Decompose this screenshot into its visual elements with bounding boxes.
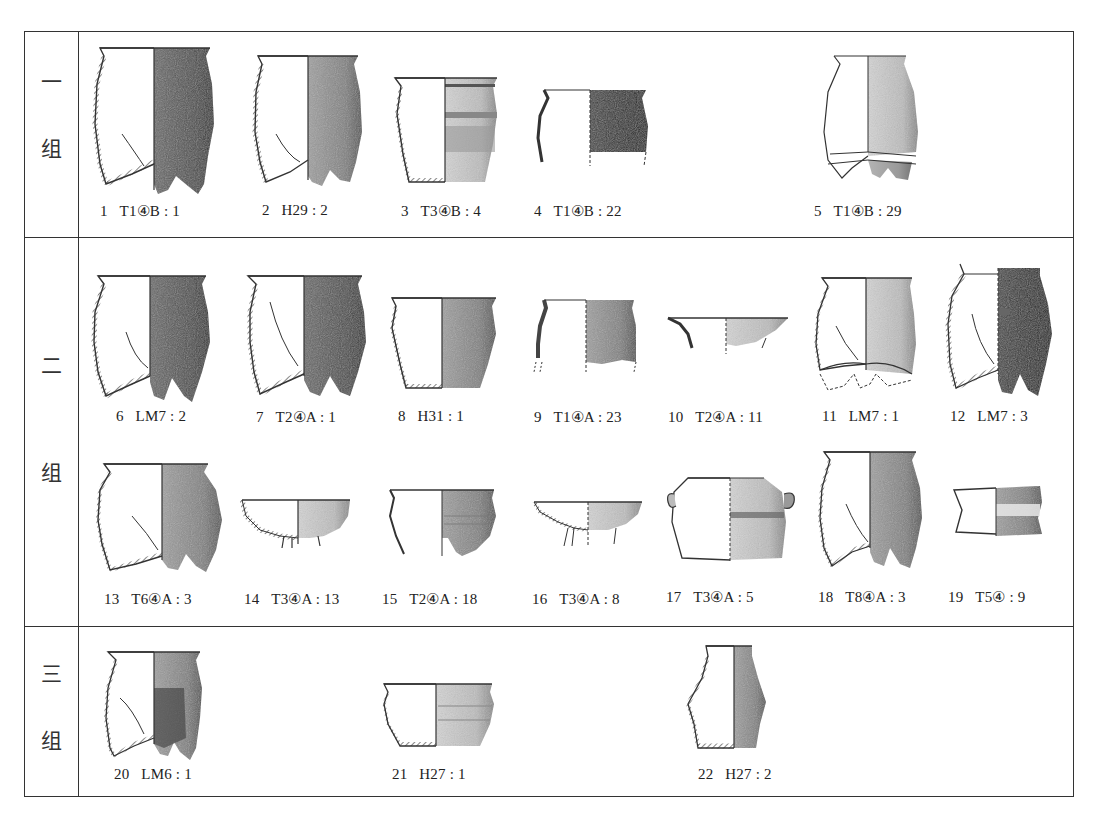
item-label: T6④A : 3 — [131, 591, 191, 607]
bowl-drawing-icon — [240, 496, 352, 552]
tripod-vessel-reconstructed-drawing-icon — [812, 52, 922, 184]
caption-5: 5 T1④B : 29 — [814, 202, 902, 220]
tripod-vessel-drawing-icon — [92, 44, 217, 196]
item-number: 3 — [401, 203, 409, 219]
item-number: 21 — [392, 766, 407, 782]
item-label: T1④B : 29 — [834, 203, 902, 219]
item-label: T3④A : 13 — [271, 591, 339, 607]
item-number: 5 — [814, 203, 822, 219]
caption-7: 7 T2④A : 1 — [256, 408, 336, 426]
bowl-drawing-icon — [530, 498, 646, 552]
item-label: H29 : 2 — [282, 202, 328, 218]
item-number: 15 — [382, 591, 397, 607]
caption-12: 12 LM7 : 3 — [950, 408, 1028, 425]
caption-18: 18 T8④A : 3 — [818, 588, 906, 606]
caption-17: 17 T3④A : 5 — [666, 588, 754, 606]
group-2-label: 二 组 — [24, 356, 78, 484]
tripod-vessel-drawing-icon — [246, 272, 366, 402]
tripod-vessel-drawing-icon — [252, 52, 364, 192]
item-number: 4 — [534, 203, 542, 219]
item-number: 2 — [262, 202, 270, 218]
group-2-label-bottom: 组 — [24, 463, 78, 484]
item-label: T8④A : 3 — [845, 589, 905, 605]
group-divider-1 — [24, 237, 1074, 238]
item-number: 22 — [698, 766, 713, 782]
caption-20: 20 LM6 : 1 — [114, 766, 192, 783]
item-label: H27 : 2 — [725, 766, 771, 782]
item-number: 12 — [950, 408, 965, 424]
item-number: 10 — [668, 409, 683, 425]
caption-3: 3 T3④B : 4 — [401, 202, 481, 220]
item-label: T1④B : 1 — [120, 203, 180, 219]
item-label: T1④B : 22 — [554, 203, 622, 219]
item-number: 20 — [114, 766, 129, 782]
item-number: 14 — [244, 591, 259, 607]
tripod-vessel-drawing-icon — [104, 648, 204, 764]
caption-9: 9 T1④A : 23 — [534, 408, 622, 426]
caption-13: 13 T6④A : 3 — [104, 590, 192, 608]
item-number: 16 — [532, 591, 547, 607]
item-number: 1 — [100, 203, 108, 219]
tripod-vessel-drawing-icon — [96, 460, 224, 576]
item-number: 9 — [534, 409, 542, 425]
jar-fragment-drawing-icon — [386, 486, 498, 558]
group-1-label-top: 一 — [24, 72, 78, 93]
group-3-label-top: 三 — [24, 664, 78, 685]
item-label: LM7 : 3 — [977, 408, 1028, 424]
caption-14: 14 T3④A : 13 — [244, 590, 339, 608]
item-label: T5④ : 9 — [975, 589, 1025, 605]
bowl-fragment-drawing-icon — [666, 314, 792, 362]
item-label: LM6 : 1 — [141, 766, 192, 782]
tripod-vessel-drawing-icon — [92, 272, 210, 404]
caption-21: 21 H27 : 1 — [392, 766, 466, 783]
item-number: 8 — [398, 408, 406, 424]
vessel-neck-fragment-drawing-icon — [950, 484, 1046, 544]
caption-16: 16 T3④A : 8 — [532, 590, 620, 608]
group-2-label-top: 二 — [24, 356, 78, 377]
item-label: T2④A : 1 — [276, 409, 336, 425]
jar-with-handles-drawing-icon — [664, 472, 800, 568]
item-number: 7 — [256, 409, 264, 425]
caption-4: 4 T1④B : 22 — [534, 202, 622, 220]
item-number: 17 — [666, 589, 681, 605]
group-1-label: 一 组 — [24, 72, 78, 160]
item-label: T2④A : 11 — [695, 409, 763, 425]
tripod-vessel-drawing-icon — [944, 264, 1054, 398]
caption-6: 6 LM7 : 2 — [116, 408, 186, 425]
item-number: 18 — [818, 589, 833, 605]
caption-8: 8 H31 : 1 — [398, 408, 464, 425]
item-label: H27 : 1 — [419, 766, 465, 782]
item-label: T3④A : 5 — [693, 589, 753, 605]
jar-fragment-drawing-icon — [532, 86, 652, 172]
group-column-divider — [78, 31, 79, 797]
tripod-vessel-drawing-icon — [818, 448, 928, 572]
tripod-vessel-reconstructed-drawing-icon — [814, 274, 916, 392]
group-1-label-bottom: 组 — [24, 139, 78, 160]
item-number: 13 — [104, 591, 119, 607]
caption-10: 10 T2④A : 11 — [668, 408, 763, 426]
group-divider-2 — [24, 626, 1074, 627]
jar-drawing-icon — [393, 74, 503, 186]
item-number: 6 — [116, 408, 124, 424]
caption-22: 22 H27 : 2 — [698, 766, 772, 783]
jar-drawing-icon — [390, 294, 498, 390]
group-3-label: 三 组 — [24, 664, 78, 752]
group-3-label-bottom: 组 — [24, 731, 78, 752]
caption-19: 19 T5④ : 9 — [948, 588, 1026, 606]
caption-1: 1 T1④B : 1 — [100, 202, 180, 220]
caption-11: 11 LM7 : 1 — [822, 408, 899, 425]
item-label: T2④A : 18 — [409, 591, 477, 607]
item-label: H31 : 1 — [418, 408, 464, 424]
item-label: T1④A : 23 — [554, 409, 622, 425]
caption-15: 15 T2④A : 18 — [382, 590, 477, 608]
item-number: 11 — [822, 408, 837, 424]
item-label: T3④A : 8 — [559, 591, 619, 607]
item-label: LM7 : 2 — [136, 408, 187, 424]
item-label: LM7 : 1 — [849, 408, 900, 424]
caption-2: 2 H29 : 2 — [262, 202, 328, 219]
vase-drawing-icon — [682, 642, 786, 754]
jar-drawing-icon — [380, 680, 498, 752]
jar-fragment-drawing-icon — [532, 296, 642, 378]
item-number: 19 — [948, 589, 963, 605]
item-label: T3④B : 4 — [421, 203, 481, 219]
